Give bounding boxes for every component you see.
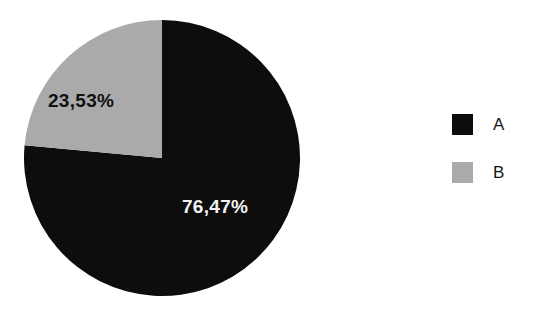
legend-label-a: A	[493, 116, 504, 133]
legend-item-b[interactable]: B	[452, 148, 532, 196]
pie-chart: 23,53% 76,47%	[0, 0, 300, 313]
pie-label-a: 76,47%	[182, 196, 248, 218]
legend-label-b: B	[493, 164, 504, 181]
legend-item-a[interactable]: A	[452, 100, 532, 148]
pie-slice-b[interactable]	[25, 20, 162, 158]
pie-label-b: 23,53%	[48, 90, 114, 112]
pie-chart-svg	[0, 0, 300, 313]
legend-swatch-a-icon	[452, 114, 473, 135]
legend-swatch-b-icon	[452, 162, 473, 183]
legend: A B	[452, 100, 532, 196]
